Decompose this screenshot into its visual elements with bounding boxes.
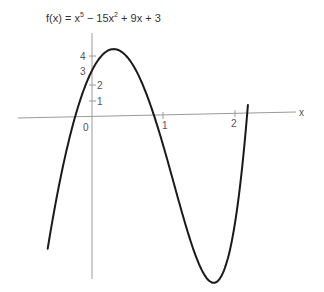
x-tick-label-2: 2	[231, 118, 237, 129]
y-tick-label-1: 1	[97, 96, 103, 107]
y-tick-label-4: 4	[80, 51, 86, 62]
x-tick-label-1: 1	[162, 120, 168, 131]
x-tick-label-0: 0	[83, 122, 89, 133]
x-axis-label: x	[299, 107, 304, 118]
plot-area: x 0 1 2 1 2 3 4	[0, 0, 324, 292]
x-axis	[18, 112, 296, 118]
function-curve	[48, 49, 248, 283]
y-tick-label-2: 2	[97, 80, 103, 91]
y-tick-label-3: 3	[80, 66, 86, 77]
